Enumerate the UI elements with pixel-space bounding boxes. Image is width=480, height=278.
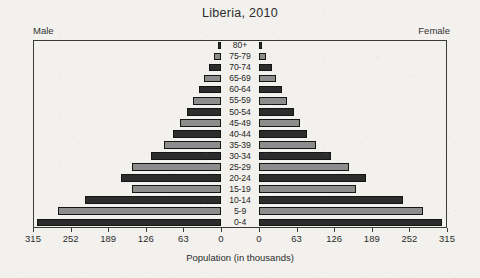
x-tick-mark-left xyxy=(33,228,34,232)
male-half xyxy=(33,139,221,150)
female-bar[interactable] xyxy=(259,42,262,50)
x-tick-mark-left xyxy=(146,228,147,232)
age-group-label: 45-49 xyxy=(221,119,259,128)
male-half xyxy=(33,184,221,195)
pyramid-row: 10-14 xyxy=(33,195,447,206)
male-side-label: Male xyxy=(33,25,54,36)
female-half xyxy=(259,173,447,184)
male-bar[interactable] xyxy=(199,86,221,94)
age-group-label: 65-69 xyxy=(221,74,259,83)
male-bar[interactable] xyxy=(164,141,221,149)
pyramid-row: 30-34 xyxy=(33,150,447,161)
male-half xyxy=(33,162,221,173)
male-half xyxy=(33,217,221,228)
female-half xyxy=(259,128,447,139)
male-bar[interactable] xyxy=(209,64,221,72)
female-half xyxy=(259,73,447,84)
female-bar[interactable] xyxy=(259,207,423,215)
female-bar[interactable] xyxy=(259,53,266,61)
male-half xyxy=(33,95,221,106)
female-bar[interactable] xyxy=(259,119,300,127)
female-bar[interactable] xyxy=(259,64,272,72)
female-half xyxy=(259,51,447,62)
x-tick-label-right: 252 xyxy=(401,233,417,244)
x-tick-label-right: 189 xyxy=(364,233,380,244)
x-tick-label-right: 126 xyxy=(326,233,342,244)
age-group-label: 25-29 xyxy=(221,163,259,172)
male-bar[interactable] xyxy=(37,219,221,227)
female-bar[interactable] xyxy=(259,75,276,83)
age-group-label: 55-59 xyxy=(221,96,259,105)
male-half xyxy=(33,40,221,51)
x-tick-label-left: 252 xyxy=(63,233,79,244)
male-half xyxy=(33,62,221,73)
male-bar[interactable] xyxy=(85,196,221,204)
male-half xyxy=(33,195,221,206)
age-group-label: 40-44 xyxy=(221,130,259,139)
female-side-label: Female xyxy=(418,25,450,36)
age-group-label: 60-64 xyxy=(221,85,259,94)
age-group-label: 30-34 xyxy=(221,152,259,161)
x-tick-mark-right xyxy=(259,228,260,232)
x-tick-label-left: 315 xyxy=(25,233,41,244)
male-bar[interactable] xyxy=(151,152,221,160)
male-bar[interactable] xyxy=(58,207,221,215)
female-half xyxy=(259,217,447,228)
x-tick-mark-right xyxy=(447,228,448,232)
x-tick-label-left: 126 xyxy=(138,233,154,244)
male-bar[interactable] xyxy=(204,75,221,83)
x-tick-mark-right xyxy=(297,228,298,232)
female-bar[interactable] xyxy=(259,219,442,227)
x-axis: 315252189126630063126189252315 xyxy=(33,228,447,248)
female-bar[interactable] xyxy=(259,97,287,105)
male-half xyxy=(33,51,221,62)
female-half xyxy=(259,40,447,51)
x-tick-mark-left xyxy=(183,228,184,232)
female-half xyxy=(259,62,447,73)
pyramid-row: 75-79 xyxy=(33,51,447,62)
x-tick-mark-left xyxy=(71,228,72,232)
male-half xyxy=(33,117,221,128)
pyramid-row: 65-69 xyxy=(33,73,447,84)
age-group-label: 35-39 xyxy=(221,141,259,150)
female-half xyxy=(259,117,447,128)
female-bar[interactable] xyxy=(259,163,349,171)
pyramid-row: 80+ xyxy=(33,40,447,51)
male-half xyxy=(33,128,221,139)
male-bar[interactable] xyxy=(187,108,221,116)
female-half xyxy=(259,139,447,150)
female-half xyxy=(259,162,447,173)
female-bar[interactable] xyxy=(259,152,331,160)
male-bar[interactable] xyxy=(132,185,221,193)
age-group-label: 70-74 xyxy=(221,63,259,72)
male-half xyxy=(33,173,221,184)
population-pyramid-chart: Liberia, 2010 Male Female 80+75-7970-746… xyxy=(0,0,480,278)
female-bar[interactable] xyxy=(259,196,403,204)
female-bar[interactable] xyxy=(259,86,282,94)
male-bar[interactable] xyxy=(132,163,221,171)
female-bar[interactable] xyxy=(259,174,366,182)
pyramid-row: 55-59 xyxy=(33,95,447,106)
male-bar[interactable] xyxy=(180,119,221,127)
x-tick-label-left: 0 xyxy=(218,233,223,244)
female-half xyxy=(259,106,447,117)
age-group-label: 50-54 xyxy=(221,108,259,117)
male-bar[interactable] xyxy=(193,97,221,105)
male-bar[interactable] xyxy=(121,174,221,182)
x-tick-label-left: 189 xyxy=(100,233,116,244)
male-bar[interactable] xyxy=(173,130,221,138)
x-tick-mark-left xyxy=(221,228,222,232)
x-axis-title: Population (in thousands) xyxy=(0,252,480,263)
x-tick-mark-right xyxy=(372,228,373,232)
female-bar[interactable] xyxy=(259,108,294,116)
age-group-label: 80+ xyxy=(221,41,259,50)
male-half xyxy=(33,73,221,84)
female-bar[interactable] xyxy=(259,185,356,193)
female-bar[interactable] xyxy=(259,130,307,138)
female-bar[interactable] xyxy=(259,141,316,149)
x-tick-mark-left xyxy=(108,228,109,232)
x-tick-label-right: 63 xyxy=(291,233,302,244)
pyramid-row: 0-4 xyxy=(33,217,447,228)
male-half xyxy=(33,106,221,117)
age-group-label: 5-9 xyxy=(221,207,259,216)
